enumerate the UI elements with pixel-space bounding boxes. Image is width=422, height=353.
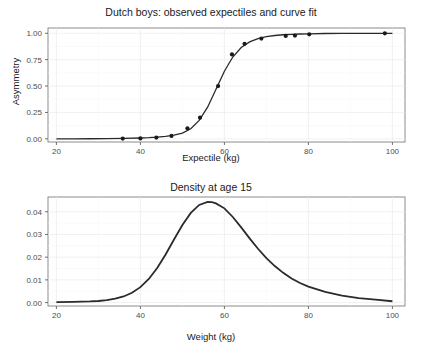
y-tick-label: 0.03 — [26, 230, 42, 239]
density-chart-panel: 204060801000.000.010.020.030.04 — [0, 175, 422, 353]
x-tick-label: 20 — [52, 147, 61, 156]
y-tick-label: 1.00 — [26, 29, 42, 38]
x-tick-label: 60 — [220, 147, 229, 156]
data-point — [230, 52, 234, 56]
x-tick-label: 100 — [386, 147, 400, 156]
y-tick-label: 0.75 — [26, 56, 42, 65]
expectile-chart-panel: Dutch boys: observed expectiles and curv… — [0, 0, 422, 175]
data-point — [121, 137, 125, 141]
x-tick-label: 80 — [304, 311, 313, 320]
data-point — [154, 135, 158, 139]
data-point — [198, 116, 202, 120]
x-tick-label: 60 — [220, 311, 229, 320]
x-tick-label: 40 — [136, 311, 145, 320]
chart-title-density: Density at age 15 — [0, 181, 422, 193]
density-plot-area: 204060801000.000.010.020.030.04 — [0, 175, 422, 353]
y-tick-label: 0.04 — [26, 208, 42, 217]
data-point — [383, 31, 387, 35]
data-point — [259, 36, 263, 40]
data-point — [138, 136, 142, 140]
data-point — [185, 126, 189, 130]
figure-container: Dutch boys: observed expectiles and curv… — [0, 0, 422, 353]
y-tick-label: 0.02 — [26, 253, 42, 262]
y-tick-label: 0.25 — [26, 108, 42, 117]
x-axis-label-weight: Weight (kg) — [0, 331, 422, 342]
panel-background — [48, 28, 405, 142]
x-tick-label: 80 — [304, 147, 313, 156]
y-tick-label: 0.00 — [26, 135, 42, 144]
data-point — [307, 32, 311, 36]
x-tick-label: 100 — [386, 311, 400, 320]
data-point — [284, 34, 288, 38]
x-tick-label: 20 — [52, 311, 61, 320]
data-point — [242, 42, 246, 46]
x-tick-label: 40 — [136, 147, 145, 156]
y-tick-label: 0.00 — [26, 299, 42, 308]
data-point — [293, 34, 297, 38]
data-point — [216, 84, 220, 88]
expectile-plot-area: 204060801000.000.250.500.751.00 — [0, 0, 422, 175]
data-point — [169, 134, 173, 138]
y-tick-label: 0.01 — [26, 276, 42, 285]
panel-background — [48, 197, 405, 306]
y-tick-label: 0.50 — [26, 82, 42, 91]
